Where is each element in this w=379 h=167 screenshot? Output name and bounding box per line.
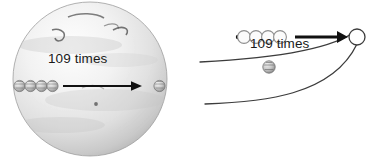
sun-disk-panel: 109 times	[0, 0, 190, 167]
sun-panel-canvas	[0, 0, 190, 167]
lens-outline-lower	[205, 44, 357, 104]
earth-outline-1	[238, 31, 251, 44]
sun-disk	[13, 2, 167, 156]
sun-scale-label: 109 times	[48, 52, 107, 66]
earth-sphere-3	[36, 80, 47, 91]
lens-panel-canvas	[190, 0, 379, 167]
earth-sphere-2	[25, 80, 36, 91]
figure-root: 109 times	[0, 0, 379, 167]
sun-circle-small	[349, 29, 365, 45]
sunspot-center	[94, 102, 98, 106]
lens-scale-label: 109 times	[250, 37, 309, 51]
earth-sphere-4	[47, 80, 58, 91]
earth-sphere-edge	[154, 80, 165, 91]
lens-outline-panel: 109 times	[190, 0, 379, 167]
earth-sphere-1	[14, 80, 25, 91]
earth-sphere-on-arc	[263, 61, 275, 73]
